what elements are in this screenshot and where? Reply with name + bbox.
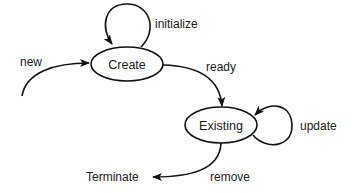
- state-create-label: Create: [108, 58, 146, 72]
- state-existing: Existing: [185, 107, 257, 143]
- transition-initialize-label: initialize: [155, 17, 198, 31]
- state-diagram: new initialize ready update remove Termi…: [0, 0, 358, 193]
- state-create: Create: [91, 47, 163, 81]
- transition-remove-label: remove: [210, 170, 250, 184]
- transition-new-label: new: [20, 55, 42, 69]
- terminate-label: Terminate: [86, 170, 139, 184]
- transition-initialize-loop: [105, 4, 150, 47]
- transition-update-loop: [253, 106, 292, 145]
- state-existing-label: Existing: [199, 119, 243, 133]
- transition-update-label: update: [300, 119, 337, 133]
- transition-ready-label: ready: [206, 60, 236, 74]
